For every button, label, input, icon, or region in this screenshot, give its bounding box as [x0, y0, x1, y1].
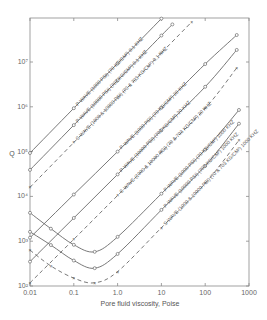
data-point-marker	[237, 108, 240, 111]
data-point-marker: ×	[190, 19, 193, 25]
y-tick-label: 10⁵	[17, 148, 28, 155]
curve-label: S-WAVE (1000 & 10000 PSI) (70 & 703 KG/C…	[118, 100, 212, 194]
curve-labels: P-WAVE (1000 PSI) (70 KG/CM²) 0.1 KHZP-W…	[74, 36, 259, 227]
data-point-marker	[160, 208, 163, 211]
data-point-marker	[29, 230, 32, 233]
data-point-marker: ×	[235, 65, 238, 71]
x-axis-label: Pore fluid viscosity, Poise	[101, 300, 180, 308]
data-point-marker	[49, 244, 52, 247]
data-point-marker	[72, 259, 75, 262]
data-point-marker	[72, 243, 75, 246]
data-point-marker	[93, 267, 96, 270]
data-point-marker	[171, 23, 174, 26]
data-point-marker: ×	[116, 269, 119, 275]
data-point-marker	[72, 124, 75, 127]
curve-label: P-WAVE (1000 PSI) (70 KG/CM²) 0.1 KHZ	[74, 36, 144, 107]
data-point-marker: ×	[72, 236, 75, 242]
data-point-marker	[235, 34, 238, 37]
y-tick-label: 10³	[18, 237, 29, 244]
data-point-marker	[29, 211, 32, 214]
data-point-marker	[29, 236, 32, 239]
data-point-marker: ×	[116, 192, 119, 198]
y-tick-label: 10²	[18, 282, 29, 289]
x-tick-labels: 0.010.11.0101001000	[23, 289, 257, 296]
data-point-marker	[72, 107, 75, 110]
data-point-marker: ×	[160, 225, 163, 231]
data-point-marker	[204, 63, 207, 66]
y-tick-label: 10⁶	[17, 103, 28, 110]
x-tick-label: 0.1	[69, 289, 79, 296]
data-point-marker	[116, 235, 119, 238]
y-tick-label: 10⁴	[17, 192, 28, 199]
data-point-marker	[116, 252, 119, 255]
data-point-marker	[160, 192, 163, 195]
data-point-marker: ×	[49, 263, 52, 269]
data-point-marker: ×	[29, 247, 32, 253]
data-point-marker	[72, 216, 75, 219]
data-point-marker	[204, 85, 207, 88]
data-point-marker	[235, 48, 238, 51]
data-point-marker	[160, 34, 163, 37]
data-point-marker: ×	[29, 280, 32, 286]
y-tick-label: 10⁷	[18, 58, 29, 65]
data-point-marker	[160, 17, 163, 20]
curve-label: P-WAVE (10000 PSI) (703 KG/CM²) 0.1 KHZ	[74, 49, 148, 124]
data-point-marker: ×	[72, 139, 75, 145]
data-point-marker	[49, 227, 52, 230]
data-point-marker: ×	[72, 275, 75, 281]
x-tick-label: 0.01	[23, 289, 37, 296]
data-point-marker: ×	[93, 280, 96, 286]
x-tick-label: 100	[199, 289, 211, 296]
y-axis-label: Q	[9, 150, 15, 158]
data-point-marker: ×	[29, 184, 32, 190]
data-point-marker	[116, 173, 119, 176]
curve-label: P-WAVE (1000 PSI) (70 KG/CM²) 1000 KHZ	[162, 119, 235, 193]
q-vs-viscosity-chart: 0.010.11.0101001000 10²10³10⁴10⁵10⁶10⁷ ×…	[0, 0, 267, 320]
x-tick-label: 1.0	[113, 289, 123, 296]
data-point-marker	[72, 193, 75, 196]
data-point-marker	[29, 168, 32, 171]
x-tick-label: 10	[158, 289, 166, 296]
data-point-marker	[29, 152, 32, 155]
data-point-marker	[93, 250, 96, 253]
data-point-marker	[237, 122, 240, 125]
y-tick-labels: 10²10³10⁴10⁵10⁶10⁷	[17, 58, 28, 289]
data-point-marker	[116, 150, 119, 153]
x-tick-label: 1000	[241, 289, 257, 296]
data-point-marker	[29, 260, 32, 263]
